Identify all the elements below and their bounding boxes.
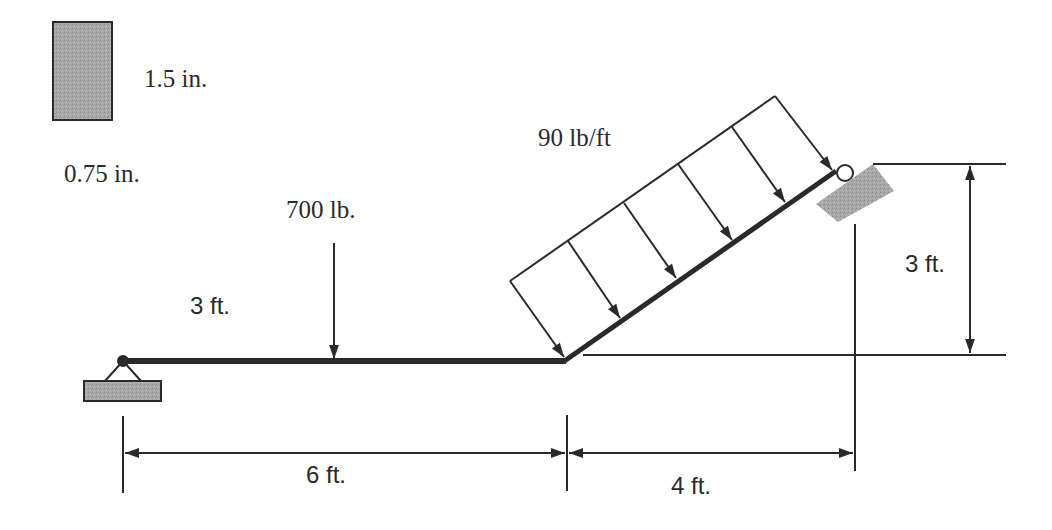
inclined-beam	[563, 171, 836, 362]
horizontal-span-label: 6 ft.	[306, 463, 346, 487]
point-load-position-label: 3 ft.	[190, 294, 230, 318]
section-height-label: 1.5 in.	[144, 66, 207, 91]
point-load-label: 700 lb.	[286, 197, 355, 222]
cross-section-rect	[53, 22, 112, 120]
distributed-load-label: 90 lb/ft	[538, 125, 611, 150]
inclined-run-label: 4 ft.	[671, 474, 711, 498]
section-width-label: 0.75 in.	[64, 161, 140, 186]
inclined-rise-label: 3 ft.	[905, 252, 945, 276]
roller-support-icon	[816, 164, 894, 222]
